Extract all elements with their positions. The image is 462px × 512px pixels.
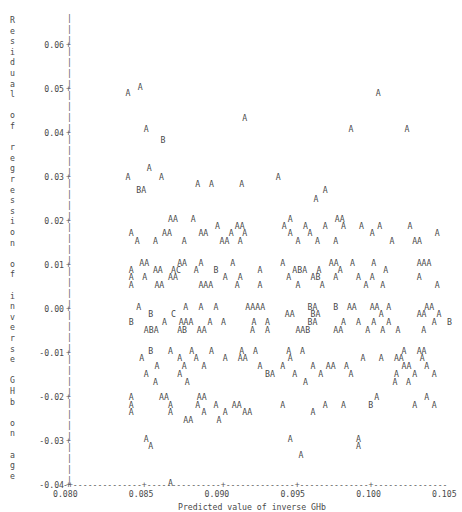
y-tick-label: 0.01 [22, 261, 64, 269]
data-point-marker: A [432, 370, 437, 378]
data-point-marker: A [250, 326, 255, 334]
y-axis-label-char: s [10, 345, 15, 353]
data-point-marker: A [230, 259, 235, 267]
data-point-marker: AA [402, 362, 412, 370]
data-point-marker: AA [183, 416, 193, 424]
data-point-marker: A [144, 370, 149, 378]
data-point-marker: AA [232, 401, 242, 409]
data-point-marker: A [288, 215, 293, 223]
data-point-marker: A [153, 378, 158, 386]
data-point-marker: A [265, 326, 270, 334]
data-point-marker: A [370, 273, 375, 281]
data-point-marker: A [379, 354, 384, 362]
data-point-marker: AA [333, 326, 343, 334]
data-point-marker: A [356, 318, 361, 326]
data-point-marker: A [159, 173, 164, 181]
data-point-marker: A [386, 303, 391, 311]
data-point-marker: A [318, 370, 323, 378]
data-point-marker: A [126, 173, 131, 181]
y-axis-segment: | [67, 201, 72, 209]
y-axis-label-char: s [10, 37, 15, 45]
y-axis-segment: | [67, 135, 72, 143]
y-axis-segment: | [67, 223, 72, 231]
data-point-marker: A [142, 273, 147, 281]
data-point-marker: ABA [292, 266, 307, 274]
data-point-marker: A [242, 114, 247, 122]
data-point-marker: A [320, 281, 325, 289]
data-point-marker: A [258, 281, 263, 289]
data-point-marker: A [195, 180, 200, 188]
y-axis-segment: | [67, 157, 72, 165]
data-point-marker: AA [198, 229, 208, 237]
y-axis-segment: | [67, 190, 72, 198]
data-point-marker: A [370, 229, 375, 237]
data-point-marker: A [432, 401, 437, 409]
y-axis-label-char: l [10, 90, 15, 98]
data-point-marker: A [323, 222, 328, 230]
y-axis-label-char: r [10, 175, 15, 183]
data-point-marker: BA [265, 370, 275, 378]
data-point-marker: A [238, 237, 243, 245]
data-point-marker: A [144, 125, 149, 133]
data-point-marker: A [183, 303, 188, 311]
y-axis-label-char: g [10, 461, 15, 469]
data-point-marker: A [129, 281, 134, 289]
data-point-marker: A [198, 259, 203, 267]
data-point-marker: AAB [295, 326, 310, 334]
y-axis-label-char: i [10, 48, 15, 56]
data-point-marker: AA [168, 215, 178, 223]
data-point-marker: A [421, 326, 426, 334]
x-tick-label: 0.105 [432, 490, 457, 498]
data-point-marker: A [295, 237, 300, 245]
y-axis-label-char: o [10, 260, 15, 268]
y-axis-segment: | [67, 168, 72, 176]
data-point-marker: A [412, 370, 417, 378]
y-tick-label: -0.04 [22, 481, 64, 489]
data-point-marker: A [314, 195, 319, 203]
data-point-marker: AA [154, 281, 164, 289]
data-point-marker: A [298, 451, 303, 459]
data-point-marker: A [276, 173, 281, 181]
data-point-marker: AB [177, 326, 187, 334]
data-point-marker: C [171, 310, 176, 318]
y-axis-label-char: e [10, 186, 15, 194]
x-axis-rule: -+--------------+---------------+-------… [63, 481, 448, 489]
y-tick-label: 0.05 [22, 85, 64, 93]
data-point-marker: AA [326, 362, 336, 370]
data-point-marker: A [392, 378, 397, 386]
data-point-marker: A [341, 222, 346, 230]
y-axis-label-char: o [10, 111, 15, 119]
data-point-marker: A [386, 318, 391, 326]
data-point-marker: A [417, 273, 422, 281]
y-axis-label-char: e [10, 323, 15, 331]
y-axis-segment: | [67, 113, 72, 121]
data-point-marker: A [194, 266, 199, 274]
y-axis-label-char: d [10, 58, 15, 66]
data-point-marker: A [308, 229, 313, 237]
data-point-marker: B [214, 266, 219, 274]
data-point-marker: B [333, 303, 338, 311]
y-axis-label-char: s [10, 196, 15, 204]
data-point-marker: AA [197, 326, 207, 334]
y-axis-segment: | [67, 14, 72, 22]
data-point-marker: A [182, 362, 187, 370]
y-axis-label-char: n [10, 302, 15, 310]
x-tick-label: 0.090 [205, 490, 230, 498]
y-axis-segment: | [67, 344, 72, 352]
data-point-marker: A [311, 408, 316, 416]
data-point-marker: AA [238, 354, 248, 362]
data-point-marker: A [408, 222, 413, 230]
y-axis-segment: | [67, 366, 72, 374]
data-point-marker: A [235, 281, 240, 289]
data-point-marker: A [209, 347, 214, 355]
y-axis-segment: | [67, 300, 72, 308]
data-point-marker: A [214, 303, 219, 311]
y-axis-label-char: e [10, 472, 15, 480]
data-point-marker: A [376, 89, 381, 97]
y-tick-label: 0.04 [22, 129, 64, 137]
y-axis-segment: | [67, 47, 72, 55]
data-point-marker: A [436, 310, 441, 318]
y-axis-segment: | [67, 102, 72, 110]
data-point-marker: A [198, 303, 203, 311]
residual-scatter-plot: ResidualofregressionofinverseGHbonage 0.… [0, 0, 462, 512]
